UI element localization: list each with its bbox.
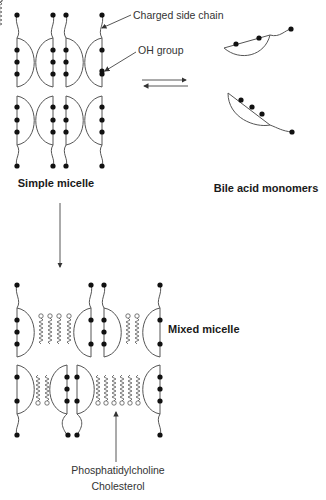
label-oh-group: OH group	[138, 45, 184, 56]
micelle-diagram	[0, 0, 326, 500]
label-cholesterol: Cholesterol	[91, 481, 144, 492]
label-bile-acid-monomers: Bile acid monomers	[214, 183, 319, 194]
mixed-micelle-dots	[14, 282, 162, 437]
label-mixed-micelle: Mixed micelle	[168, 324, 240, 335]
label-phosphatidylcholine: Phosphatidylcholine	[71, 465, 164, 476]
label-pointers	[102, 15, 136, 71]
simple-micelle-dots	[14, 12, 104, 168]
label-simple-micelle: Simple micelle	[18, 178, 94, 189]
mixed-micelle	[16, 285, 160, 435]
equilibrium-arrows	[142, 80, 188, 86]
simple-micelle	[16, 15, 102, 166]
label-charged-side-chain: Charged side chain	[133, 10, 223, 21]
